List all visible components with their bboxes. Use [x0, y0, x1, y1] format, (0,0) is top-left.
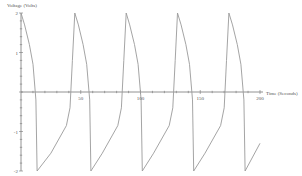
- y-axis-label: Voltage (Volts): [7, 3, 37, 8]
- y-tick-label: -2: [14, 169, 19, 174]
- x-tick-label: 150: [197, 96, 205, 101]
- x-tick-label: 100: [137, 96, 145, 101]
- x-tick-label: 200: [256, 96, 264, 101]
- x-tick-labels: 50100150200: [78, 96, 264, 101]
- y-tick-label: 2: [16, 11, 19, 16]
- x-tick-label: 50: [78, 96, 84, 101]
- voltage-time-chart: Voltage (Volts) Time (Seconds) 501001502…: [0, 0, 302, 176]
- axes: [19, 13, 263, 171]
- y-tick-label: 1: [16, 51, 19, 56]
- y-tick-labels: 21-1-2: [14, 11, 19, 174]
- y-tick-label: -1: [14, 130, 19, 135]
- x-axis-label: Time (Seconds): [266, 91, 298, 96]
